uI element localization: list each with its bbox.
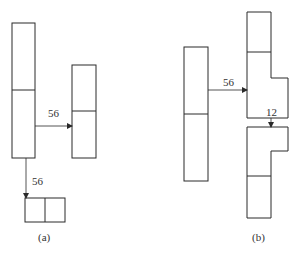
down-arrow-label-a: 56 [32,175,44,187]
panel-b: 56 12 (b) [184,12,288,244]
right-block-a [72,65,96,158]
panel-a: 56 56 (a) [12,23,96,244]
bottom-block-a [25,198,65,222]
right-arrow-label-b: 56 [223,76,235,88]
caption-b: (b) [252,231,265,244]
down-arrow-label-b: 12 [266,106,277,118]
top-notched-block-b [247,12,288,118]
caption-a: (a) [38,231,51,244]
diagram-canvas: 56 56 (a) 56 12 (b) [0,0,298,255]
bottom-notched-block-b [247,127,288,218]
right-arrow-label-a: 56 [48,107,60,119]
tall-block-a [12,23,35,158]
tall-block-b [184,47,208,181]
